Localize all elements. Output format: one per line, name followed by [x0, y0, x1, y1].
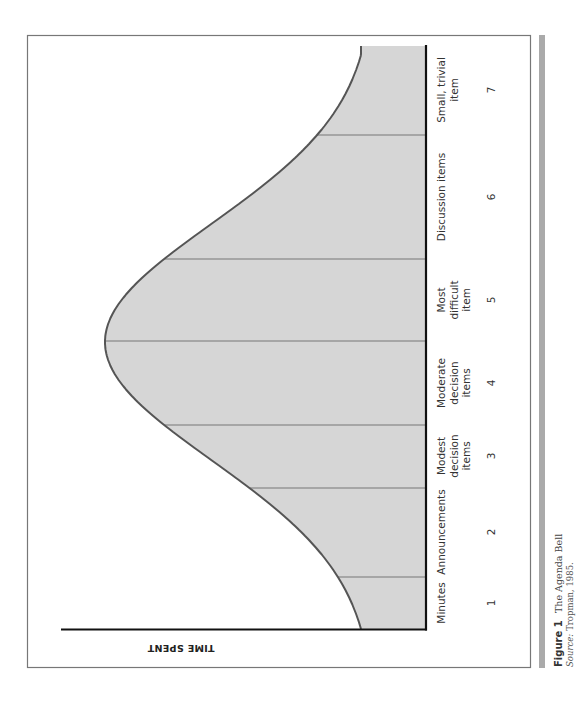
figure-caption: Figure 1 The Agenda Bell Source:Tropman,…	[553, 534, 575, 667]
category-number: 2	[485, 529, 497, 536]
category-label: Modestdecisionitems3	[435, 434, 497, 477]
category-number: 5	[485, 297, 497, 304]
source-label: Source:	[565, 634, 575, 667]
time-spent-axis-label: TIME SPENT	[147, 643, 214, 654]
category-label-line: Most	[435, 287, 447, 312]
category-number: 6	[485, 193, 497, 200]
side-bar	[539, 35, 545, 668]
category-label-line: item	[448, 78, 460, 102]
category-label: Small, trivialitem7	[435, 57, 497, 123]
category-label-line: Announcements	[435, 489, 447, 574]
category-label-line: Discussion items	[435, 153, 447, 241]
category-number: 7	[485, 87, 497, 94]
source-text: Tropman, 1985.	[565, 562, 575, 631]
category-label-line: item	[460, 288, 472, 312]
category-label: Moderatedecisionitems4	[435, 358, 497, 408]
figure-page: TIME SPENT Minutes1Announcements2Modestd…	[0, 0, 585, 713]
category-label-line: Moderate	[435, 358, 447, 408]
category-label-line: decision	[448, 434, 460, 477]
category-label-line: Minutes	[435, 582, 447, 623]
category-label-line: decision	[448, 361, 460, 404]
category-label-line: Small, trivial	[435, 57, 447, 123]
category-label-line: items	[460, 441, 472, 470]
category-label-line: items	[460, 368, 472, 397]
category-number: 3	[485, 453, 497, 460]
category-labels: Minutes1Announcements2Modestdecisionitem…	[435, 57, 497, 624]
figure-label: Figure 1	[553, 620, 564, 667]
category-label: Minutes1	[435, 582, 497, 623]
category-label: Announcements2	[435, 489, 497, 574]
category-label-line: difficult	[448, 280, 460, 319]
category-number: 4	[485, 379, 497, 386]
category-number: 1	[485, 600, 497, 607]
category-label: Discussion items6	[435, 153, 497, 241]
category-label: Mostdifficultitem5	[435, 280, 497, 319]
category-label-line: Modest	[435, 437, 447, 475]
bell-curve-area	[105, 46, 426, 629]
figure-title: The Agenda Bell	[553, 534, 564, 613]
figure-source: Source:Tropman, 1985.	[565, 562, 575, 667]
